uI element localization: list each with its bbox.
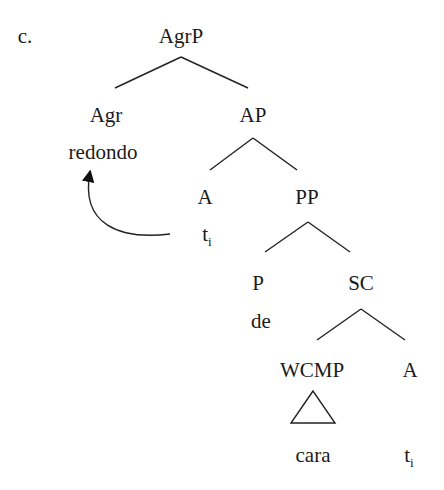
- node-p: P: [252, 271, 264, 295]
- tree-branch: [265, 222, 308, 252]
- node-label: WCMP: [280, 358, 344, 382]
- node-label: Agr: [90, 103, 123, 127]
- tree-branch: [253, 138, 297, 170]
- tree-branch: [210, 138, 253, 170]
- syntax-tree-diagram: c. AgrPAgrredondoAPAtiPPPdeSCWCMPAcarati: [0, 0, 444, 490]
- node-label: P: [252, 271, 264, 295]
- triangle-icon: [291, 391, 335, 423]
- node-wcmp: WCMP: [280, 358, 344, 382]
- node-sc: SC: [348, 271, 374, 295]
- node-wcmp-word: cara: [296, 443, 331, 467]
- node-label: AgrP: [159, 24, 203, 48]
- node-label: AP: [240, 103, 267, 127]
- tree-branch: [115, 57, 181, 88]
- node-label: A: [402, 358, 417, 382]
- tree-branch: [361, 309, 405, 340]
- node-a1-trace: ti: [202, 222, 211, 254]
- node-agr-word: redondo: [69, 140, 138, 164]
- node-label: PP: [295, 185, 318, 209]
- node-agr: Agr: [90, 103, 123, 127]
- node-a2-trace: ti: [404, 443, 413, 475]
- node-p-word: de: [251, 309, 271, 333]
- tree-branches: [0, 0, 444, 490]
- node-label: redondo: [69, 140, 138, 164]
- movement-arrow-icon: [88, 172, 170, 235]
- node-agrp: AgrP: [159, 24, 203, 48]
- node-label: cara: [296, 443, 331, 467]
- node-pp: PP: [295, 185, 318, 209]
- node-ap: AP: [240, 103, 267, 127]
- tree-branch: [181, 57, 248, 88]
- trace-index: i: [410, 455, 414, 470]
- tree-branch: [308, 222, 350, 252]
- node-a1: A: [197, 185, 212, 209]
- node-a2: A: [402, 358, 417, 382]
- tree-branch: [317, 309, 361, 340]
- node-label: A: [197, 185, 212, 209]
- trace-index: i: [208, 234, 212, 249]
- node-label: de: [251, 309, 271, 333]
- node-label: SC: [348, 271, 374, 295]
